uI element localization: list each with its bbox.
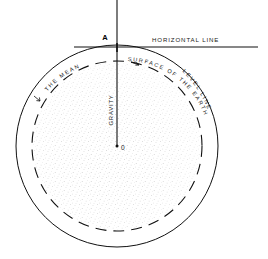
center-point-label: 0 (121, 144, 125, 151)
gravity-label: GRAVITY (108, 94, 114, 125)
point-a-label: A (102, 33, 108, 42)
horizontal-line-label: HORIZONTAL LINE (152, 36, 219, 43)
center-point-dot (116, 145, 119, 148)
geodesy-diagram: A HORIZONTAL LINE THE MEAN SURFACE OF TH… (0, 0, 268, 259)
